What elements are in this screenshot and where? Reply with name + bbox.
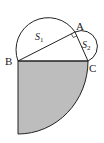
- geometry-diagram: A B C S1 S2: [0, 0, 104, 143]
- label-b: B: [5, 55, 12, 67]
- label-s1: S1: [35, 31, 44, 44]
- semicircle-s1: [16, 18, 75, 61]
- shaded-quarter-circle: [18, 61, 88, 134]
- label-c: C: [89, 62, 96, 74]
- segment-ba: [18, 32, 75, 61]
- label-a: A: [76, 20, 84, 32]
